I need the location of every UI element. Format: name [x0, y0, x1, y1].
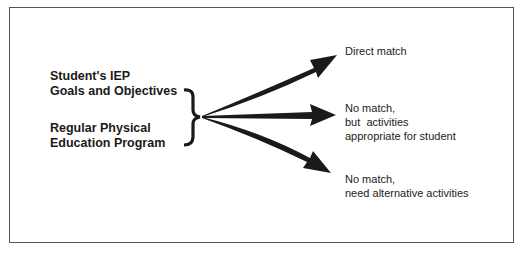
iep-goals-label-line1: Student's IEP [50, 69, 130, 84]
curly-brace-icon [184, 90, 200, 145]
outcome-appropriate-line2: but activities [345, 115, 409, 130]
outcome-appropriate-line3: appropriate for student [345, 129, 456, 144]
iep-goals-label-line2: Goals and Objectives [50, 84, 177, 99]
outcome-alternative-line2: need alternative activities [345, 186, 469, 201]
outcome-direct-match: Direct match [345, 44, 407, 59]
arrow-no-match-alternative-icon [202, 117, 331, 173]
regular-pe-label-line2: Education Program [50, 136, 165, 151]
outcome-appropriate-line1: No match, [345, 101, 395, 116]
regular-pe-label-line1: Regular Physical [50, 121, 151, 136]
outcome-alternative-line1: No match, [345, 172, 395, 187]
